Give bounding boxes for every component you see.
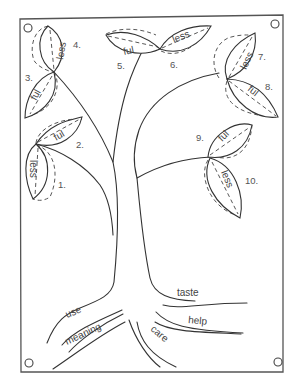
leaf-4: less 4. (32, 26, 81, 72)
root-taste-lower (163, 303, 247, 307)
leaf-10-number: 10. (245, 175, 258, 186)
leaf-9: ful 9. (196, 124, 252, 158)
leaf-10: less 10. (205, 158, 259, 218)
leaf-8: ful 8. (226, 79, 278, 117)
leaf-1-number: 1. (58, 179, 66, 190)
leaf-7-number: 7. (258, 51, 266, 62)
root-label-help: help (188, 314, 208, 327)
root-label-meaning: meaning (63, 321, 102, 347)
tree-trunk (36, 44, 219, 343)
root-label-taste: taste (177, 287, 199, 298)
leaf-9-number: 9. (196, 132, 204, 143)
root-label-use: use (64, 303, 83, 319)
corner-hole-icon (24, 24, 32, 32)
leaf-2-number: 2. (76, 139, 84, 150)
corner-hole-icon (274, 358, 282, 366)
trunk-right-outline (134, 73, 219, 301)
root-label-care: care (149, 323, 171, 344)
leaf-3-number: 3. (25, 72, 33, 83)
branch-right-lower (137, 157, 211, 178)
leaf-4-suffix: less (54, 41, 68, 60)
leaf-1-suffix: less (28, 160, 39, 178)
leaf-3: ful 3. (25, 72, 57, 118)
leaf-7: less 7. (214, 33, 266, 79)
branch-lower-left (36, 144, 113, 235)
leaf-6: less 6. (160, 26, 211, 70)
leaf-2: ful 2. (36, 117, 84, 150)
leaf-6-number: 6. (170, 59, 178, 70)
leaf-5-suffix: ful (122, 44, 135, 57)
corner-hole-icon (271, 20, 279, 28)
word-tree-diagram: less 1. ful 2. ful 3. less 4. ful 5. les… (0, 0, 300, 392)
leaf-5: ful 5. (106, 29, 160, 71)
leaf-4-number: 4. (73, 39, 81, 50)
trunk-left-outline (47, 72, 118, 343)
corner-hole-icon (25, 359, 33, 367)
leaf-8-number: 8. (265, 81, 273, 92)
leaf-5-number: 5. (117, 60, 125, 71)
